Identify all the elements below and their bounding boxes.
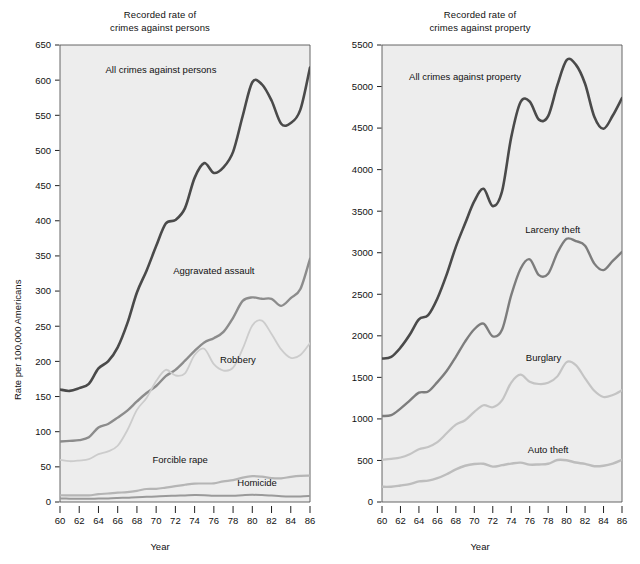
y-tick-label: 0 [46, 496, 51, 507]
x-tick-label: 76 [209, 515, 220, 526]
x-tick-label: 68 [451, 515, 462, 526]
y-tick-label: 3000 [352, 247, 373, 258]
y-tick-label: 150 [35, 391, 51, 402]
series-label: Robbery [220, 354, 256, 365]
y-tick-label: 2000 [352, 330, 373, 341]
y-tick-label: 4000 [352, 164, 373, 175]
x-tick-label: 60 [377, 515, 388, 526]
x-tick-label: 80 [561, 515, 572, 526]
crime-rate-figure: Recorded rate of crimes against persons … [0, 0, 640, 564]
y-tick-label: 450 [35, 180, 51, 191]
x-tick-label: 62 [74, 515, 85, 526]
plot-area-property: 0500100015002000250030003500400045005000… [320, 0, 640, 564]
y-tick-label: 200 [35, 356, 51, 367]
plot-background [382, 45, 622, 502]
x-tick-label: 82 [580, 515, 591, 526]
y-tick-label: 5000 [352, 81, 373, 92]
x-tick-label: 76 [524, 515, 535, 526]
x-tick-label: 70 [469, 515, 480, 526]
x-tick-label: 70 [151, 515, 162, 526]
y-tick-label: 400 [35, 215, 51, 226]
panel-crimes-against-persons: Recorded rate of crimes against persons … [0, 0, 320, 564]
y-tick-label: 500 [35, 145, 51, 156]
x-tick-label: 60 [55, 515, 66, 526]
x-tick-label: 62 [395, 515, 406, 526]
y-tick-label: 600 [35, 75, 51, 86]
x-tick-label: 74 [189, 515, 200, 526]
x-tick-label: 72 [170, 515, 181, 526]
panel-crimes-against-property: Recorded rate of crimes against property… [320, 0, 640, 564]
x-tick-label: 72 [487, 515, 498, 526]
y-tick-label: 50 [40, 461, 51, 472]
x-tick-label: 66 [112, 515, 123, 526]
x-tick-label: 64 [414, 515, 425, 526]
y-tick-label: 0 [368, 496, 373, 507]
y-tick-label: 5500 [352, 39, 373, 50]
y-tick-label: 4500 [352, 122, 373, 133]
y-tick-label: 550 [35, 110, 51, 121]
x-tick-label: 84 [598, 515, 609, 526]
x-tick-label: 66 [432, 515, 443, 526]
y-axis-label-persons: Rate per 100,000 Americans [12, 280, 23, 400]
x-axis-label-property: Year [320, 541, 640, 552]
x-axis-label-persons: Year [0, 541, 320, 552]
y-tick-label: 1000 [352, 413, 373, 424]
y-tick-label: 3500 [352, 206, 373, 217]
series-label: Homicide [237, 477, 277, 488]
x-tick-label: 78 [228, 515, 239, 526]
series-label: All crimes against property [409, 71, 521, 82]
x-tick-label: 74 [506, 515, 517, 526]
x-tick-label: 68 [132, 515, 143, 526]
plot-area-persons: 0501001502002503003504004505005506006506… [0, 0, 320, 564]
series-label: Burglary [526, 352, 562, 363]
series-label: Auto theft [528, 444, 569, 455]
x-tick-label: 82 [266, 515, 277, 526]
y-tick-label: 100 [35, 426, 51, 437]
y-tick-label: 1500 [352, 372, 373, 383]
y-tick-label: 300 [35, 285, 51, 296]
y-tick-label: 2500 [352, 289, 373, 300]
series-label: Larceny theft [525, 224, 580, 235]
series-label: Forcible rape [152, 454, 207, 465]
x-tick-label: 78 [543, 515, 554, 526]
y-tick-label: 500 [357, 455, 373, 466]
y-tick-label: 350 [35, 250, 51, 261]
series-label: Aggravated assault [173, 265, 255, 276]
x-tick-label: 86 [617, 515, 628, 526]
series-label: All crimes against persons [106, 64, 217, 75]
x-tick-label: 84 [285, 515, 296, 526]
y-tick-label: 250 [35, 321, 51, 332]
x-tick-label: 64 [93, 515, 104, 526]
x-tick-label: 86 [305, 515, 316, 526]
y-tick-label: 650 [35, 39, 51, 50]
x-tick-label: 80 [247, 515, 258, 526]
